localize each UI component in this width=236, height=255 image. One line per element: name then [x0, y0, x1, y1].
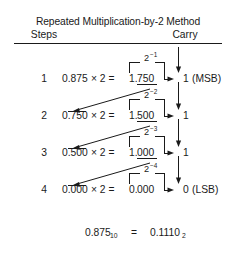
- weight-bracket: [129, 100, 164, 110]
- row-result-fraction: 000: [137, 184, 154, 195]
- carry-tag: (LSB): [192, 184, 218, 195]
- row-operand: 0.875: [62, 73, 88, 84]
- column-header-steps: Steps: [31, 29, 57, 40]
- figure-title: Repeated Multiplication-by-2 Method: [36, 16, 201, 27]
- weight-exponent-label: −3: [150, 125, 158, 132]
- summary-decimal-value: 0.875: [85, 227, 111, 238]
- summary-equation: 0.875 10 = 0.1110 2: [85, 227, 186, 239]
- row-operand: 0.000: [62, 184, 88, 195]
- figure-root: Repeated Multiplication-by-2 Method Step…: [0, 0, 236, 255]
- weight-base-label: 2: [144, 53, 149, 63]
- table-row: 1 0.875 × 2 = 1. 750 2 −1 1 (MSB): [41, 51, 221, 85]
- row-operator: × 2 =: [91, 147, 114, 158]
- weight-base-label: 2: [144, 90, 149, 100]
- carry-arrowhead-4: [176, 178, 181, 185]
- row-step-number: 4: [41, 184, 47, 195]
- carry-arrowhead-1: [176, 67, 181, 74]
- row-operator: × 2 =: [91, 73, 114, 84]
- weight-exponent-label: −2: [150, 88, 158, 95]
- weight-bracket: [129, 137, 164, 147]
- summary-decimal-subscript: 10: [110, 232, 118, 239]
- row-step-number: 3: [41, 147, 47, 158]
- carry-digit: 1: [183, 73, 189, 84]
- summary-binary-subscript: 2: [182, 232, 186, 239]
- carry-elbow-arrowhead: [168, 150, 175, 155]
- carry-digit: 0: [183, 184, 189, 195]
- weight-exponent-label: −1: [150, 51, 158, 58]
- row-operand: 0.500: [62, 147, 88, 158]
- carry-digit: 1: [183, 147, 189, 158]
- carry-elbow-arrowhead: [168, 187, 175, 192]
- weight-exponent-label: −4: [150, 162, 158, 169]
- carry-elbow-arrowhead: [168, 76, 175, 81]
- column-header-carry: Carry: [172, 29, 198, 40]
- carry-digit: 1: [183, 110, 189, 121]
- weight-bracket: [129, 63, 164, 73]
- carry-tag: (MSB): [192, 73, 221, 84]
- row-operand: 0.750: [62, 110, 88, 121]
- carry-elbow-arrowhead: [168, 113, 175, 118]
- row-step-number: 1: [41, 73, 47, 84]
- carry-arrowhead-3: [176, 141, 181, 148]
- weight-base-label: 2: [144, 164, 149, 174]
- row-operator: × 2 =: [91, 110, 114, 121]
- row-step-number: 2: [41, 110, 47, 121]
- repeated-multiplication-diagram: Repeated Multiplication-by-2 Method Step…: [0, 0, 236, 255]
- table-row: 3 0.500 × 2 = 1. 000 2 −3 1: [41, 125, 189, 159]
- summary-binary-value: 0.1110: [150, 227, 180, 238]
- carry-arrowhead-2: [176, 104, 181, 111]
- weight-base-label: 2: [144, 127, 149, 137]
- carry-flow-line: [176, 47, 181, 184]
- table-row: 4 0.000 × 2 = 0. 000 2 −4 0 (LSB): [41, 162, 218, 195]
- row-result-fraction: 750: [137, 73, 154, 84]
- row-operator: × 2 =: [91, 184, 114, 195]
- row-result-fraction: 500: [137, 110, 154, 121]
- table-row: 2 0.750 × 2 = 1. 500 2 −2 1: [41, 88, 189, 122]
- row-result-fraction: 000: [137, 147, 154, 158]
- summary-equals-sign: =: [131, 227, 137, 238]
- weight-bracket: [129, 174, 164, 184]
